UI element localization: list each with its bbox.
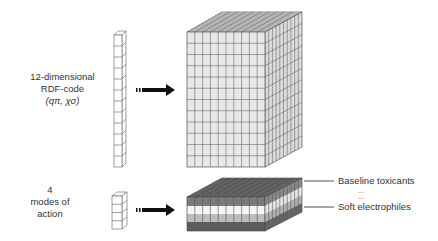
moa-output-slab: [187, 178, 302, 231]
right-arrow-icon: [136, 84, 175, 96]
rdf-output-cube: [187, 12, 302, 167]
diagram-canvas: [0, 0, 438, 241]
rdf-input-column: [114, 31, 126, 167]
right-arrow-icon: [136, 204, 175, 216]
moa-input-column: [112, 192, 127, 229]
